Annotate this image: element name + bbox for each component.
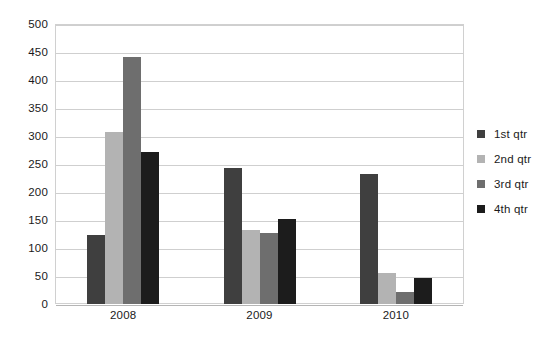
y-tick-label: 500 — [28, 18, 48, 30]
x-tick-label: 2010 — [383, 309, 409, 321]
gridline — [56, 165, 463, 166]
legend-item-label: 4th qtr — [494, 203, 528, 215]
x-tick-label: 2008 — [110, 309, 136, 321]
legend-item[interactable]: 2nd qtr — [477, 153, 531, 165]
legend-item-label: 3rd qtr — [494, 178, 529, 190]
y-tick-label: 350 — [28, 102, 48, 114]
chart-legend: 1st qtr2nd qtr3rd qtr4th qtr — [477, 128, 531, 215]
legend-swatch-icon — [477, 180, 485, 188]
legend-item[interactable]: 3rd qtr — [477, 178, 531, 190]
legend-swatch-icon — [477, 155, 485, 163]
legend-item[interactable]: 1st qtr — [477, 128, 531, 140]
legend-item[interactable]: 4th qtr — [477, 203, 531, 215]
y-tick-label: 200 — [28, 186, 48, 198]
legend-item-label: 1st qtr — [494, 128, 527, 140]
gridline — [56, 109, 463, 110]
gridline — [56, 249, 463, 250]
legend-item-label: 2nd qtr — [494, 153, 531, 165]
y-tick-label: 450 — [28, 46, 48, 58]
gridline — [56, 81, 463, 82]
gridline — [56, 221, 463, 222]
bar-chart: 050100150200250300350400450500 200820092… — [0, 0, 553, 339]
gridline — [56, 305, 463, 306]
y-tick-label: 250 — [28, 158, 48, 170]
y-tick-label: 100 — [28, 242, 48, 254]
legend-swatch-icon — [477, 205, 485, 213]
gridline — [56, 25, 463, 26]
plot-area — [55, 24, 464, 304]
y-tick-label: 150 — [28, 214, 48, 226]
legend-swatch-icon — [477, 130, 485, 138]
gridline — [56, 137, 463, 138]
gridline — [56, 277, 463, 278]
gridline — [56, 193, 463, 194]
gridline — [56, 53, 463, 54]
y-axis: 050100150200250300350400450500 — [0, 24, 48, 304]
x-tick-label: 2009 — [246, 309, 272, 321]
x-axis: 200820092010 — [55, 309, 464, 329]
y-tick-label: 400 — [28, 74, 48, 86]
y-tick-label: 300 — [28, 130, 48, 142]
y-tick-label: 0 — [41, 298, 48, 310]
y-tick-label: 50 — [35, 270, 48, 282]
